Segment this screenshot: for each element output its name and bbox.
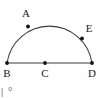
point-e-marker [80, 37, 84, 41]
point-d-marker [90, 61, 94, 65]
point-c-marker [43, 61, 47, 65]
point-a-label: A [22, 7, 30, 19]
semicircle-diagram: A E B C D | ° [0, 0, 105, 98]
point-b-marker [5, 61, 9, 65]
point-d-label: D [88, 67, 96, 79]
footer-bar-artifact: | [1, 85, 3, 97]
semicircle-arc [7, 26, 92, 63]
footer-degree-artifact: ° [8, 85, 12, 97]
geometry-figure: A E B C D | ° [0, 0, 105, 98]
point-e-label: E [86, 22, 93, 34]
point-a-marker [26, 25, 30, 29]
point-c-label: C [41, 67, 48, 79]
point-b-label: B [3, 67, 10, 79]
